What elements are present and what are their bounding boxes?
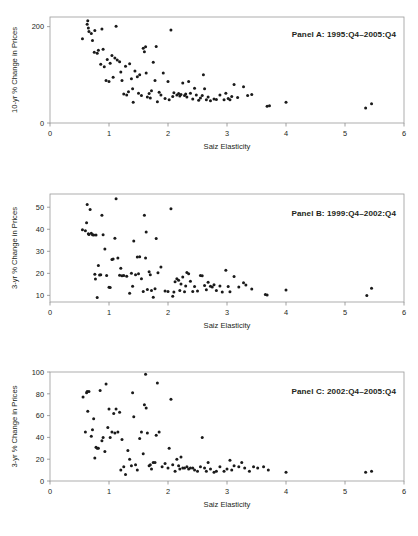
data-point (81, 37, 84, 40)
data-point (91, 39, 94, 42)
data-point (103, 248, 106, 251)
data-point (126, 449, 129, 452)
data-point (100, 214, 103, 217)
data-point (136, 469, 139, 472)
data-point (237, 465, 240, 468)
data-point (154, 461, 157, 464)
x-tick-label: 2 (166, 308, 170, 317)
data-point (266, 293, 269, 296)
data-point (364, 471, 367, 474)
data-point (124, 65, 127, 68)
data-point (120, 438, 123, 441)
data-point (146, 95, 149, 98)
x-tick-label: 6 (402, 129, 406, 138)
data-point (112, 76, 115, 79)
data-point (201, 436, 204, 439)
data-point (128, 62, 131, 65)
data-point (150, 289, 153, 292)
panel-title: Panel A: 1995:Q4–2005:Q4 (292, 30, 397, 39)
data-point (199, 96, 202, 99)
data-point (125, 275, 128, 278)
data-point (201, 94, 204, 97)
x-axis-title: Saiz Elasticity (204, 321, 251, 330)
data-point (103, 450, 106, 453)
data-point (178, 289, 181, 292)
data-point (138, 73, 141, 76)
data-point (136, 75, 139, 78)
y-tick-label: 20 (36, 269, 44, 278)
data-point (110, 54, 113, 57)
y-axis-title: 3-yr % Change in Prices (10, 385, 19, 467)
data-point (92, 417, 95, 420)
data-point (86, 410, 89, 413)
data-point (113, 237, 116, 240)
data-point (155, 45, 158, 48)
data-point (99, 63, 102, 66)
data-point (133, 69, 136, 72)
data-point (134, 273, 137, 276)
data-point (285, 471, 288, 474)
data-point (84, 229, 87, 232)
y-tick-label: 10 (36, 291, 44, 300)
data-point (150, 89, 153, 92)
data-point (167, 466, 170, 469)
panel-title: Panel B: 1999:Q4–2002:Q4 (291, 209, 396, 218)
data-point (143, 403, 146, 406)
data-point (81, 228, 84, 231)
data-point (132, 239, 135, 242)
data-point (203, 87, 206, 90)
data-point (96, 296, 99, 299)
data-point (91, 428, 94, 431)
scatter-figure: 02000123456Saiz Elasticity10-yr % Change… (0, 0, 418, 536)
data-point (144, 373, 147, 376)
data-point (119, 70, 122, 73)
data-point (118, 60, 121, 63)
data-point (267, 469, 270, 472)
data-point (203, 284, 206, 287)
data-point (207, 281, 210, 284)
data-point (224, 92, 227, 95)
plot-area-panel-c: 0204060801000123456Saiz Elasticity3-yr %… (0, 357, 418, 536)
data-point (125, 94, 128, 97)
data-point (102, 436, 105, 439)
data-point (262, 465, 265, 468)
data-point (215, 289, 218, 292)
data-point (86, 23, 89, 26)
data-point (94, 278, 97, 281)
data-point (112, 258, 115, 261)
x-tick-label: 0 (48, 308, 52, 317)
data-point (177, 464, 180, 467)
data-point (137, 272, 140, 275)
x-tick-label: 5 (343, 308, 347, 317)
data-point (187, 80, 190, 83)
data-point (93, 51, 96, 54)
data-point (209, 99, 212, 102)
data-point (285, 289, 288, 292)
data-point (242, 85, 245, 88)
x-tick-label: 3 (225, 308, 229, 317)
data-point (112, 412, 115, 415)
data-point (89, 208, 92, 211)
data-point (84, 430, 87, 433)
data-point (169, 29, 172, 32)
data-point (149, 273, 152, 276)
data-point (161, 465, 164, 468)
data-point (178, 468, 181, 471)
data-point (137, 92, 140, 95)
data-point (86, 19, 89, 22)
data-point (223, 470, 226, 473)
y-axis-title: 10-yr % Change in Prices (10, 27, 19, 113)
data-point (149, 96, 152, 99)
data-point (158, 91, 161, 94)
data-point (134, 463, 137, 466)
data-point (156, 100, 159, 103)
y-tick-label: 0 (40, 477, 44, 486)
data-point (95, 234, 98, 237)
data-point (105, 79, 108, 82)
x-tick-label: 1 (107, 308, 111, 317)
data-point (218, 465, 221, 468)
data-point (131, 87, 134, 90)
x-tick-label: 4 (284, 487, 288, 496)
data-point (193, 469, 196, 472)
data-point (177, 279, 180, 282)
